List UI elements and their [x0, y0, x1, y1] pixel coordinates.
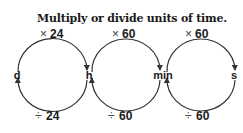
svg-text:÷: ÷	[108, 109, 115, 123]
conversion-loop-min-s	[167, 39, 235, 111]
svg-text:60: 60	[195, 27, 209, 41]
multiply-arrow-min-s	[167, 39, 235, 72]
svg-text:×: ×	[112, 27, 119, 41]
multiply-label-min-s: × 60	[185, 27, 209, 41]
conversion-loop-d-h	[18, 39, 87, 112]
svg-text:÷: ÷	[185, 109, 192, 123]
unit-label-h: h	[86, 69, 93, 81]
svg-text:24: 24	[46, 109, 60, 123]
multiply-arrow-h-min	[92, 39, 160, 72]
divide-label-h-min: ÷ 60	[108, 109, 133, 123]
svg-text:60: 60	[196, 109, 210, 123]
svg-text:÷: ÷	[35, 109, 42, 123]
unit-label-d: d	[14, 69, 21, 81]
unit-label-min: min	[153, 69, 173, 81]
unit-label-s: s	[231, 69, 237, 81]
divide-label-d-h: ÷ 24	[35, 109, 60, 123]
multiply-label-h-min: × 60	[112, 27, 136, 41]
divide-label-min-s: ÷ 60	[185, 109, 210, 123]
multiply-arrow-d-h	[18, 39, 87, 72]
conversion-loop-h-min	[92, 39, 160, 111]
svg-text:24: 24	[50, 27, 64, 41]
divide-arrow-s-min	[167, 78, 235, 111]
divide-arrow-min-h	[92, 78, 160, 111]
svg-text:×: ×	[185, 27, 192, 41]
svg-text:60: 60	[122, 27, 136, 41]
divide-arrow-h-d	[18, 78, 87, 111]
multiply-label-d-h: × 24	[40, 27, 64, 41]
svg-text:×: ×	[40, 27, 47, 41]
svg-text:60: 60	[119, 109, 133, 123]
conversion-diagram: d h min s × 24 × 60 × 60 ÷ 24 ÷ 60 ÷ 60	[0, 0, 243, 133]
